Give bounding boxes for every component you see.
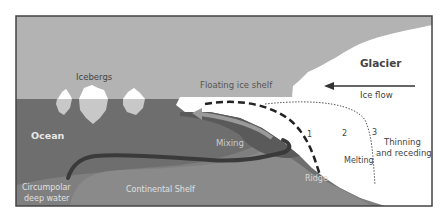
label-circumpolar-line2: deep water — [24, 194, 70, 203]
label-circumpolar-line1: Circumpolar — [22, 183, 71, 192]
label-thinning-line2: and receding — [376, 148, 432, 158]
label-mixing: Mixing — [216, 138, 244, 148]
label-ocean: Ocean — [31, 130, 65, 141]
label-floating-ice-shelf: Floating ice shelf — [200, 80, 273, 90]
label-ice-flow: Ice flow — [360, 90, 393, 100]
label-thinning-line1: Thinning — [383, 137, 421, 147]
label-stage-2: 2 — [342, 129, 347, 138]
label-stage-1: 1 — [307, 130, 312, 139]
label-melting: Melting — [344, 156, 374, 165]
label-glacier: Glacier — [360, 57, 402, 69]
label-ridge: Ridge — [305, 174, 328, 183]
ice-shelf-diagram: Icebergs Floating ice shelf Glacier Ice … — [0, 0, 445, 223]
label-continental-shelf: Continental Shelf — [126, 185, 195, 194]
label-icebergs: Icebergs — [76, 72, 113, 82]
label-stage-3: 3 — [372, 128, 377, 137]
